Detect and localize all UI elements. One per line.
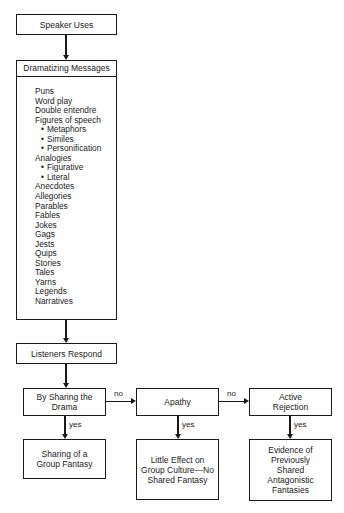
edge-label-yes: yes bbox=[294, 420, 306, 429]
group-fantasy-node: Sharing of a Group Fantasy bbox=[23, 439, 106, 479]
arrow-rejection-to-evidence bbox=[289, 416, 291, 434]
arrow-speaker-to-drama bbox=[65, 35, 67, 55]
little-effect-node: Little Effect on Group Culture—No Shared… bbox=[136, 439, 219, 500]
evidence-label: Evidence of Previously Shared Antagonist… bbox=[262, 445, 319, 495]
active-rejection-node: Active Rejection bbox=[249, 388, 332, 416]
edge-label-no: no bbox=[227, 389, 236, 398]
arrow-apathy-to-little-effect bbox=[177, 416, 179, 434]
evidence-node: Evidence of Previously Shared Antagonist… bbox=[249, 439, 332, 501]
apathy-node: Apathy bbox=[136, 388, 219, 416]
dramatizing-messages-list: Puns Word play Double entendre Figures o… bbox=[35, 87, 101, 307]
by-sharing-drama-label: By Sharing the Drama bbox=[28, 392, 101, 412]
listeners-respond-node: Listeners Respond bbox=[16, 343, 117, 364]
arrow-listeners-to-sharing bbox=[65, 364, 67, 383]
edge-label-yes: yes bbox=[182, 420, 194, 429]
listeners-respond-label: Listeners Respond bbox=[31, 349, 102, 359]
arrow-sharing-to-fantasy bbox=[64, 416, 66, 434]
apathy-label: Apathy bbox=[164, 397, 190, 407]
arrow-apathy-to-rejection bbox=[219, 401, 244, 402]
speaker-uses-label: Speaker Uses bbox=[40, 20, 93, 30]
dramatizing-messages-header: Dramatizing Messages bbox=[17, 61, 116, 77]
arrowhead-icon bbox=[244, 398, 249, 404]
edge-label-yes: yes bbox=[69, 420, 81, 429]
edge-label-no: no bbox=[114, 389, 123, 398]
dramatizing-messages-node: Dramatizing Messages Puns Word play Doub… bbox=[16, 60, 117, 320]
arrow-drama-to-listeners bbox=[65, 320, 67, 338]
by-sharing-drama-node: By Sharing the Drama bbox=[23, 388, 106, 416]
speaker-uses-node: Speaker Uses bbox=[16, 14, 117, 35]
group-fantasy-label: Sharing of a Group Fantasy bbox=[32, 449, 97, 469]
arrowhead-icon bbox=[131, 398, 136, 404]
arrow-sharing-to-apathy bbox=[106, 401, 131, 402]
list-item: Narratives bbox=[35, 297, 101, 307]
active-rejection-label: Active Rejection bbox=[268, 392, 313, 412]
little-effect-label: Little Effect on Group Culture—No Shared… bbox=[139, 455, 216, 485]
